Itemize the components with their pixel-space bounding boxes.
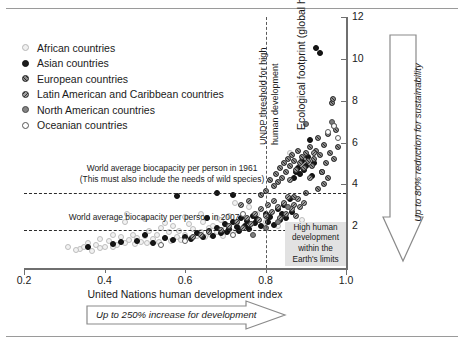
y-tick-label-4: 4 [352, 177, 358, 189]
data-point-african [126, 237, 132, 243]
data-point-european [317, 152, 323, 158]
data-point-latin [293, 213, 299, 219]
data-point-latin [295, 196, 301, 202]
data-point-oceanian [335, 135, 341, 141]
data-point-latin [301, 200, 307, 206]
y-tick-label-10: 10 [352, 52, 364, 64]
data-point-latin [287, 177, 293, 183]
data-point-european [311, 156, 317, 162]
data-point-asian [170, 237, 176, 243]
legend-item-african[interactable]: African countries [22, 40, 224, 56]
y-tick-8 [341, 101, 347, 102]
x-tick-0.8 [266, 268, 267, 273]
data-point-north [285, 204, 291, 210]
data-point-asian [134, 238, 140, 244]
data-point-european [321, 181, 327, 187]
data-point-european [295, 148, 301, 154]
data-point-asian [317, 50, 323, 56]
y-tick-label-6: 6 [352, 136, 358, 148]
legend-item-asian[interactable]: Asian countries [22, 56, 224, 72]
legend-label-north: North American countries [37, 104, 155, 116]
legend-marker-north-icon [22, 106, 29, 113]
data-point-oceanian [325, 129, 331, 135]
annotation-biocapacity-1961: World average biocapacity per person in … [62, 163, 282, 184]
data-point-european [307, 144, 313, 150]
data-point-asian [174, 193, 180, 199]
legend-item-north[interactable]: North American countries [22, 102, 224, 118]
high-human-development-region: High human development within the Earth'… [285, 222, 346, 266]
annotation-undp-threshold-line1: UNDP threshold for high [258, 48, 269, 145]
legend-item-latin[interactable]: Latin American and Caribbean countries [22, 87, 224, 103]
data-point-latin [190, 234, 196, 240]
annotation-undp-threshold-line2: human development [270, 63, 281, 145]
data-point-european [330, 96, 336, 102]
data-point-asian [142, 232, 148, 238]
data-point-oceanian [230, 232, 236, 238]
legend-marker-oceanian-icon [22, 122, 29, 129]
data-point-latin [269, 209, 275, 215]
data-point-european [325, 175, 331, 181]
data-point-oceanian [331, 123, 337, 129]
data-point-european [283, 169, 289, 175]
data-point-african [110, 232, 116, 238]
arrow-sustainability-reduction: Up to 80% reduction for sustainability [382, 34, 424, 262]
x-axis-title: United Nations human development index [60, 288, 310, 300]
arrow-development-increase: Up to 250% increase for development [86, 300, 286, 330]
data-point-latin [271, 198, 277, 204]
data-point-african [246, 204, 252, 210]
data-point-african [170, 223, 176, 229]
legend-label-oceanian: Oceanian countries [37, 119, 127, 131]
x-tick-label-0.4: 0.4 [85, 274, 125, 286]
y-tick-12 [341, 17, 347, 18]
data-point-asian [118, 239, 124, 245]
data-point-european [293, 167, 299, 173]
data-point-latin [283, 211, 289, 217]
legend-label-latin: Latin American and Caribbean countries [37, 88, 224, 100]
data-point-african [97, 245, 103, 251]
data-point-latin [285, 194, 291, 200]
data-point-european [315, 186, 321, 192]
legend-item-european[interactable]: European countries [22, 71, 224, 87]
annotation-biocapacity-2007: World average biocapacity per person in … [44, 212, 264, 223]
x-tick-label-0.6: 0.6 [165, 274, 205, 286]
x-tick-0.6 [185, 268, 186, 273]
x-tick-label-0.2: 0.2 [4, 274, 44, 286]
data-point-asian [307, 137, 313, 143]
data-point-oceanian [182, 238, 188, 244]
y-tick-6 [341, 143, 347, 144]
data-point-european [319, 169, 325, 175]
data-point-european [301, 165, 307, 171]
legend-marker-latin-icon [22, 91, 29, 98]
x-tick-label-1.0: 1.0 [326, 274, 366, 286]
data-point-european [331, 156, 337, 162]
high-human-development-label: High human development within the Earth'… [285, 223, 346, 266]
annotation-biocapacity-1961-line1: World average biocapacity per person in … [62, 163, 282, 174]
data-point-african [144, 240, 150, 246]
arrow-sustainability-reduction-label: Up to 80% reduction for sustainability [412, 48, 423, 238]
data-point-african [154, 232, 160, 238]
data-point-oceanian [158, 242, 164, 248]
data-point-asian [110, 241, 116, 247]
legend-label-asian: Asian countries [37, 57, 109, 69]
data-point-latin [291, 202, 297, 208]
legend-label-european: European countries [37, 73, 128, 85]
data-point-latin [238, 202, 244, 208]
legend-item-oceanian[interactable]: Oceanian countries [22, 118, 224, 134]
data-point-latin [198, 232, 204, 238]
data-point-african [65, 244, 71, 250]
data-point-latin [307, 175, 313, 181]
y-tick-10 [341, 59, 347, 60]
data-point-european [327, 150, 333, 156]
data-point-asian [162, 235, 168, 241]
data-point-european [303, 150, 309, 156]
legend: African countriesAsian countriesEuropean… [22, 40, 224, 133]
y-tick-label-2: 2 [352, 219, 358, 231]
y-tick-label-12: 12 [352, 10, 364, 22]
data-point-north [275, 219, 281, 225]
data-point-asian [150, 240, 156, 246]
y-tick-label-8: 8 [352, 94, 358, 106]
figure-root: 0.20.40.60.81.024681012 High human devel… [0, 0, 463, 348]
data-point-african [89, 248, 95, 254]
data-point-european [289, 152, 295, 158]
legend-marker-european-icon [22, 75, 29, 82]
